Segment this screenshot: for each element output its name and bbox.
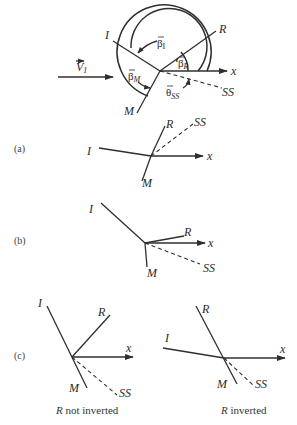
label-i: I bbox=[37, 296, 43, 310]
caption-not-inverted: R not inverted bbox=[55, 404, 119, 416]
label-theta-ss: θSS bbox=[166, 86, 179, 101]
label-m: M bbox=[146, 266, 158, 280]
label-r: R bbox=[218, 22, 227, 36]
main-diagram: V1 I R M SS x βI βR βM θSS bbox=[58, 5, 237, 118]
line-ss bbox=[224, 358, 253, 385]
panel-c: (c) I R M SS x R not inverted I R M SS x… bbox=[14, 296, 286, 416]
beta-i-arc bbox=[131, 8, 207, 71]
label-i: I bbox=[104, 28, 110, 42]
theta-ss-pointer bbox=[183, 79, 189, 88]
line-ss bbox=[145, 243, 200, 264]
caption-inverted: R inverted bbox=[220, 404, 267, 416]
label-x: x bbox=[230, 64, 237, 78]
figure: V1 I R M SS x βI βR βM θSS bbox=[0, 0, 297, 425]
label-ss: SS bbox=[194, 115, 206, 129]
label-beta-m: βM bbox=[128, 70, 142, 84]
line-i bbox=[99, 148, 151, 156]
line-r-m bbox=[196, 306, 237, 384]
panel-a-label: (a) bbox=[14, 143, 25, 155]
line-i bbox=[101, 203, 145, 243]
label-ss: SS bbox=[255, 377, 267, 391]
panel-c-left: I R M SS x R not inverted bbox=[37, 296, 133, 416]
label-ss: SS bbox=[119, 386, 131, 400]
line-r bbox=[151, 126, 165, 156]
beta-i-pointer bbox=[138, 41, 157, 53]
panel-c-label: (c) bbox=[14, 350, 25, 362]
label-m: M bbox=[141, 176, 153, 190]
line-r bbox=[72, 315, 110, 357]
label-r: R bbox=[165, 117, 174, 131]
label-x: x bbox=[125, 341, 132, 355]
label-i: I bbox=[86, 144, 92, 158]
label-ss: SS bbox=[222, 85, 234, 99]
label-beta-i: βI bbox=[157, 37, 166, 51]
label-r: R bbox=[201, 302, 210, 316]
line-r bbox=[145, 236, 184, 243]
label-i: I bbox=[164, 331, 170, 345]
label-beta-r: βR bbox=[178, 57, 189, 71]
label-m: M bbox=[68, 381, 80, 395]
line-m bbox=[145, 243, 147, 267]
line-i bbox=[163, 348, 224, 358]
label-r: R bbox=[97, 305, 106, 319]
label-x: x bbox=[207, 236, 214, 250]
label-ss: SS bbox=[203, 261, 215, 275]
panel-a: (a) I R M SS x bbox=[14, 115, 213, 190]
label-m: M bbox=[216, 377, 228, 391]
label-r: R bbox=[183, 225, 192, 239]
label-m: M bbox=[123, 104, 135, 118]
panel-b: (b) I R M SS x bbox=[14, 202, 215, 280]
label-x: x bbox=[206, 149, 213, 163]
velocity-label: V1 bbox=[76, 60, 87, 75]
label-x: x bbox=[279, 342, 286, 356]
panel-c-right: I R M SS x R inverted bbox=[163, 302, 286, 416]
label-i: I bbox=[88, 202, 94, 216]
panel-b-label: (b) bbox=[14, 235, 26, 247]
